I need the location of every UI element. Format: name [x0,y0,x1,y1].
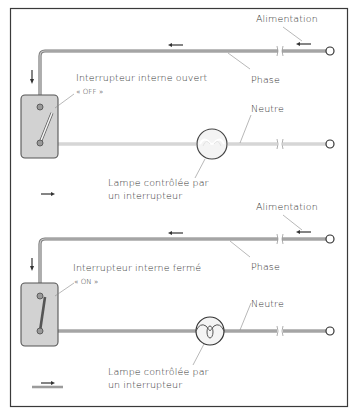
label-neutral-bottom: Neutre [251,298,284,309]
lamp-on-icon [196,317,224,345]
label-switch-top: Interrupteur interne ouvert [76,72,207,83]
label-neutral-top: Neutre [251,103,284,114]
label-lamp-top-1: Lampe contrôlée par [108,177,209,188]
label-supply-bottom: Alimentation [256,201,318,212]
switch-box-on [21,283,58,346]
switch-box-off [21,95,58,158]
label-lamp-bottom-1: Lampe contrôlée par [108,366,209,377]
lamp-off-icon [197,129,227,159]
terminal-circle-icon [326,235,334,243]
label-phase-bottom: Phase [251,261,280,272]
label-supply-top: Alimentation [256,13,318,24]
terminal-circle-icon [326,47,334,55]
label-phase-top: Phase [251,74,280,85]
terminal-circle-icon [326,140,334,148]
label-switch-bottom: Interrupteur interne fermé [73,262,201,273]
label-switch-state-top: « OFF » [76,88,103,96]
label-lamp-bottom-2: un interrupteur [108,379,182,390]
terminal-circle-icon [326,327,334,335]
label-switch-state-bottom: « ON » [74,278,98,286]
label-lamp-top-2: un interrupteur [108,190,182,201]
